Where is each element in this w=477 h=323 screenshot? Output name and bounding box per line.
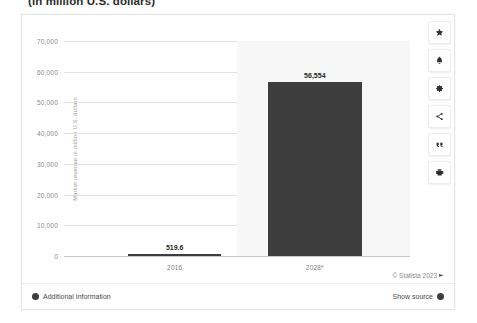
bell-icon (435, 56, 444, 65)
flag-icon (439, 274, 444, 279)
bar-2028[interactable]: 56,554 2028* (268, 82, 361, 256)
settings-gear-button[interactable] (428, 77, 451, 100)
y-axis-tick-label: 0 (54, 253, 58, 260)
copyright-notice: © Statista 2023 (392, 272, 444, 279)
y-axis-tick-label: 10,000 (37, 222, 58, 229)
y-axis-tick-label: 20,000 (37, 191, 58, 198)
show-source-button[interactable]: Show source (393, 293, 444, 300)
chart-card: Market revenue in million U.S. dollars 7… (21, 14, 455, 310)
plot-area: Market revenue in million U.S. dollars 7… (64, 41, 410, 256)
y-axis-tick-label: 40,000 (37, 130, 58, 137)
citation-quote-button[interactable] (428, 133, 451, 156)
x-axis-tick-label: 2028* (306, 264, 324, 271)
print-button[interactable] (428, 161, 451, 184)
y-axis-tick-label: 70,000 (37, 38, 58, 45)
star-icon (435, 28, 444, 37)
additional-information-button[interactable]: Additional Information (32, 293, 111, 300)
y-axis-tick-label: 50,000 (37, 99, 58, 106)
chart-toolbar (428, 21, 451, 184)
source-circle-icon (437, 293, 444, 300)
gear-icon (435, 84, 444, 93)
axis-baseline: 0 (64, 256, 410, 257)
additional-information-label: Additional Information (43, 293, 111, 300)
copyright-text: © Statista 2023 (392, 272, 437, 279)
quote-icon (435, 140, 444, 149)
bar-value-label: 519.6 (166, 244, 184, 251)
bar-2016[interactable]: 519.6 2016 (128, 254, 221, 256)
show-source-label: Show source (393, 293, 433, 300)
share-icon (435, 112, 444, 121)
favorite-star-button[interactable] (428, 21, 451, 44)
x-axis-tick-label: 2016 (167, 264, 182, 271)
bar-value-label: 56,554 (304, 72, 325, 79)
info-circle-icon (32, 293, 39, 300)
y-axis-tick-label: 30,000 (37, 160, 58, 167)
chart-footer: Additional Information Show source (22, 283, 454, 309)
y-axis-tick-label: 60,000 (37, 68, 58, 75)
chart-subtitle: (in million U.S. dollars) (28, 0, 155, 9)
share-button[interactable] (428, 105, 451, 128)
printer-icon (435, 168, 444, 177)
notification-bell-button[interactable] (428, 49, 451, 72)
y-axis-title: Market revenue in million U.S. dollars (72, 97, 78, 201)
